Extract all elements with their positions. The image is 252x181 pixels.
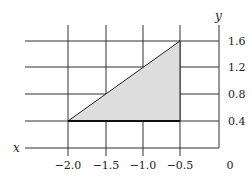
x-tick-label-origin: 0 bbox=[227, 159, 234, 172]
x-tick-label: −1.0 bbox=[130, 159, 157, 172]
y-tick-label: 0.8 bbox=[228, 88, 246, 101]
y-axis-label: y bbox=[214, 9, 222, 23]
x-tick-label: −0.5 bbox=[167, 159, 194, 172]
shaded-triangle bbox=[68, 41, 180, 121]
y-tick-label: 0.4 bbox=[228, 115, 246, 128]
x-axis-label: x bbox=[13, 141, 20, 155]
x-tick-label: −2.0 bbox=[55, 159, 82, 172]
y-tick-label: 1.2 bbox=[228, 61, 246, 74]
chart: x y −2.0 −1.5 −1.0 −0.5 0 1.6 1.2 0.8 0.… bbox=[0, 0, 252, 181]
x-tick-label: −1.5 bbox=[93, 159, 120, 172]
y-tick-label: 1.6 bbox=[228, 35, 246, 48]
